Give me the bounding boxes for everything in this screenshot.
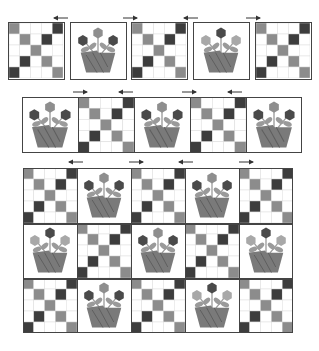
checker-square-light (142, 168, 153, 179)
flower-basket-block (185, 278, 239, 333)
press-arrow-left-icon (183, 15, 199, 21)
checker-pattern (9, 23, 63, 78)
checker-square-mid (217, 256, 228, 267)
flower-basket-block (246, 97, 302, 153)
checker-square-light (131, 289, 142, 300)
checker-square-light (109, 245, 120, 256)
flower-head (108, 35, 117, 46)
checker-square-light (164, 45, 175, 56)
checker-square-light (109, 267, 120, 278)
flower-head (285, 109, 295, 120)
checker-square-mid (132, 23, 143, 34)
checker-square-light (45, 168, 56, 179)
checker-square-light (23, 201, 34, 212)
flower-head (157, 101, 167, 112)
checker-square-light (174, 190, 185, 201)
flower-head (261, 227, 270, 238)
checker-square-light (77, 245, 88, 256)
checker-square-light (278, 67, 289, 78)
checker-square-light (239, 179, 250, 190)
checker-block (239, 278, 293, 333)
checker-square-light (207, 234, 218, 245)
checker-square-mid (239, 168, 250, 179)
checker-square-light (45, 278, 56, 289)
checker-square-light (153, 179, 164, 190)
checker-square-light (163, 278, 174, 289)
checker-square-mid (123, 142, 134, 153)
checker-square-light (55, 278, 66, 289)
checker-square-dark (256, 67, 267, 78)
flower-head (99, 172, 108, 183)
seam-line (185, 168, 186, 333)
checker-square-mid (45, 300, 56, 311)
checker-square-light (120, 245, 131, 256)
checker-square-dark (282, 168, 293, 179)
checker-square-dark (185, 267, 196, 278)
checker-square-mid (99, 245, 110, 256)
flower-basket-block (193, 22, 250, 80)
checker-square-light (164, 23, 175, 34)
flower-head (246, 235, 255, 246)
checker-square-dark (224, 108, 235, 119)
checker-square-light (212, 131, 223, 142)
flower-basket-flower-a (131, 223, 185, 278)
checker-square-light (9, 45, 20, 56)
flower-head (222, 290, 231, 301)
checker-square-mid (31, 45, 42, 56)
checker-square-light (89, 97, 100, 108)
checker-square-light (201, 119, 212, 130)
checker-square-mid (45, 190, 56, 201)
checker-square-light (143, 23, 154, 34)
checker-square-light (45, 311, 56, 322)
checker-square-mid (89, 108, 100, 119)
checker-square-mid (55, 201, 66, 212)
checker-pattern (190, 97, 246, 153)
flower-basket-flower-b (239, 223, 293, 278)
checker-square-light (250, 278, 261, 289)
checker-square-light (41, 45, 52, 56)
flower-basket-block (23, 223, 77, 278)
checker-square-mid (20, 34, 31, 45)
checker-square-light (250, 190, 261, 201)
checker-square-light (163, 300, 174, 311)
checker-square-light (235, 108, 246, 119)
checker-square-mid (9, 23, 20, 34)
checker-pattern (131, 278, 185, 333)
flower-head (192, 180, 201, 191)
checker-square-mid (153, 300, 164, 311)
checker-square-light (224, 97, 235, 108)
checker-square-dark (78, 142, 89, 153)
checker-square-dark (66, 168, 77, 179)
checker-square-light (20, 23, 31, 34)
checker-square-light (288, 23, 299, 34)
flower-head (138, 235, 147, 246)
checker-square-mid (282, 212, 293, 223)
checker-square-light (217, 223, 228, 234)
checker-square-mid (78, 97, 89, 108)
checker-square-light (100, 131, 111, 142)
checker-square-light (164, 67, 175, 78)
checker-square-mid (235, 142, 246, 153)
checker-square-light (175, 56, 186, 67)
checker-square-mid (88, 234, 99, 245)
checker-square-dark (41, 34, 52, 45)
checker-square-mid (112, 131, 123, 142)
checker-square-light (153, 212, 164, 223)
checker-square-dark (9, 67, 20, 78)
checker-square-dark (112, 108, 123, 119)
checker-square-light (132, 56, 143, 67)
checker-square-light (299, 34, 310, 45)
checker-block (131, 168, 185, 223)
checker-square-light (190, 131, 201, 142)
checker-square-dark (201, 131, 212, 142)
checker-square-light (212, 97, 223, 108)
checker-square-light (207, 267, 218, 278)
checker-square-light (99, 256, 110, 267)
checker-square-dark (239, 212, 250, 223)
checker-square-light (142, 278, 153, 289)
checker-square-dark (88, 256, 99, 267)
checker-square-mid (261, 190, 272, 201)
flower-head (276, 235, 285, 246)
checker-square-light (23, 300, 34, 311)
checker-square-light (250, 300, 261, 311)
